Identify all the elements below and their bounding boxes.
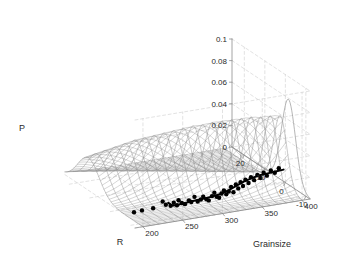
y-tick-label: 400 (304, 202, 318, 211)
y-tick-label: 200 (145, 229, 159, 238)
back-wall-left-gridlines (232, 39, 310, 199)
plot-canvas: 00.020.040.060.080.120100-10200250300350… (0, 0, 341, 263)
z-tick-label: 0 (223, 143, 228, 152)
z-axis-title: P (19, 123, 25, 133)
figure-3d-surface-plot: 00.020.040.060.080.120100-10200250300350… (0, 0, 341, 263)
y-tick-label: 300 (225, 216, 239, 225)
z-tick-label: 0.04 (211, 100, 227, 109)
y-tick-label: 250 (185, 222, 199, 231)
z-tick-label: 0.1 (216, 35, 228, 44)
x-axis-title: R (117, 237, 124, 247)
z-tick-label: 0.02 (211, 121, 227, 130)
z-tick-label: 0.06 (211, 78, 227, 87)
z-tick-label: 0.08 (211, 57, 227, 66)
x-tick-label: 0 (279, 187, 284, 196)
x-tick-label: 10 (256, 173, 265, 182)
x-tick-label: 20 (236, 159, 245, 168)
y-axis-title: Grainsize (253, 239, 291, 249)
y-tick-label: 350 (265, 209, 279, 218)
